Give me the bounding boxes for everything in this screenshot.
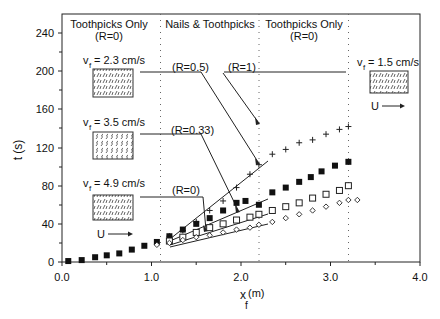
data-point <box>337 200 342 205</box>
svg-text:160: 160 <box>36 103 54 115</box>
data-point <box>247 171 253 177</box>
svg-text:0: 0 <box>48 256 54 268</box>
svg-text:U: U <box>97 228 105 240</box>
svg-text:40: 40 <box>42 218 54 230</box>
svg-text:(m): (m) <box>248 287 265 299</box>
data-point <box>323 131 329 137</box>
data-point <box>256 202 262 208</box>
data-point <box>296 140 302 146</box>
inset-v4.9 <box>93 195 133 220</box>
data-point <box>104 252 110 258</box>
x-axis-label: x f (m) <box>240 287 265 311</box>
svg-text:(R=0): (R=0) <box>290 30 318 42</box>
y-tick-labels: 0 40 80 120 160 200 240 <box>36 27 54 268</box>
svg-text:1.0: 1.0 <box>144 271 159 283</box>
data-point <box>269 151 275 157</box>
inset-v2.3 <box>93 69 133 97</box>
data-point <box>310 195 316 201</box>
data-point <box>336 187 342 193</box>
data-point <box>180 227 186 233</box>
data-point <box>308 174 314 180</box>
data-point <box>234 185 240 191</box>
data-point <box>283 146 289 152</box>
svg-text:U: U <box>371 100 379 112</box>
svg-text:3.0: 3.0 <box>323 271 338 283</box>
svg-text:240: 240 <box>36 27 54 39</box>
svg-text:f: f <box>245 300 248 311</box>
data-point <box>323 191 329 197</box>
svg-text:Nails & Toothpicks: Nails & Toothpicks <box>165 18 255 30</box>
data-point <box>296 212 301 217</box>
data-point <box>345 159 351 165</box>
data-point <box>207 207 213 213</box>
svg-text:f: f <box>89 184 92 193</box>
chart: 0 40 80 120 160 200 240 t (s) 0.0 1.0 2.… <box>0 0 440 319</box>
data-point <box>283 215 288 220</box>
data-point <box>247 214 253 220</box>
svg-text:200: 200 <box>36 65 54 77</box>
svg-text:f: f <box>89 123 92 132</box>
svg-text:= 1.5 cm/s: = 1.5 cm/s <box>368 56 420 68</box>
data-point <box>269 207 275 213</box>
data-point <box>283 185 289 191</box>
data-point <box>319 168 325 174</box>
data-point <box>116 250 122 256</box>
data-point <box>269 189 275 195</box>
data-point <box>234 217 240 223</box>
inset-v3.5 <box>93 132 133 159</box>
data-point <box>220 207 226 213</box>
y-axis <box>58 33 62 262</box>
data-point <box>346 197 351 202</box>
data-point <box>332 163 338 169</box>
svg-text:(R=0): (R=0) <box>95 30 123 42</box>
data-point <box>283 204 289 210</box>
data-point <box>270 219 275 224</box>
x-axis <box>62 262 420 266</box>
svg-text:(R=0.5): (R=0.5) <box>172 61 209 73</box>
data-point <box>256 211 262 217</box>
data-point <box>336 126 342 132</box>
svg-text:(R=0): (R=0) <box>172 184 200 196</box>
inset-v1.5 <box>370 71 408 93</box>
data-point <box>310 137 316 143</box>
data-point <box>92 254 98 260</box>
data-point <box>345 124 351 130</box>
data-point <box>247 225 252 230</box>
region-dividers <box>161 14 349 262</box>
ratio-labels: (R=0.5) (R=1) (R=0.33) (R=0) <box>171 61 256 196</box>
region-headers: Toothpicks Only (R=0) Nails & Toothpicks… <box>70 18 343 42</box>
data-point <box>220 221 226 227</box>
y-axis-label: t (s) <box>11 140 25 161</box>
svg-text:80: 80 <box>42 180 54 192</box>
data-point <box>296 200 302 206</box>
data-point <box>129 247 135 253</box>
svg-text:f: f <box>89 61 92 70</box>
svg-text:2.0: 2.0 <box>233 271 248 283</box>
data-point <box>207 225 213 231</box>
data-point <box>234 200 240 206</box>
data-point <box>355 197 360 202</box>
svg-text:f: f <box>363 63 366 72</box>
data-point <box>79 257 85 263</box>
svg-text:120: 120 <box>36 142 54 154</box>
data-point <box>345 183 351 189</box>
data-point <box>242 198 248 204</box>
svg-text:(R=1): (R=1) <box>228 61 256 73</box>
svg-text:= 4.9 cm/s: = 4.9 cm/s <box>94 177 146 189</box>
data-point <box>141 243 147 249</box>
data-point <box>193 221 199 227</box>
leader-lines <box>140 72 346 230</box>
data-point <box>323 204 328 209</box>
data-point <box>207 215 213 221</box>
data-point <box>65 258 71 264</box>
svg-text:Toothpicks Only: Toothpicks Only <box>70 18 148 30</box>
svg-text:= 3.5 cm/s: = 3.5 cm/s <box>94 116 146 128</box>
svg-text:= 2.3 cm/s: = 2.3 cm/s <box>94 54 146 66</box>
data-point <box>296 179 302 185</box>
svg-text:4.0: 4.0 <box>412 271 427 283</box>
x-tick-labels: 0.0 1.0 2.0 3.0 4.0 <box>54 271 427 283</box>
data-point <box>310 208 315 213</box>
svg-text:0.0: 0.0 <box>54 271 69 283</box>
svg-text:Toothpicks Only: Toothpicks Only <box>265 18 343 30</box>
